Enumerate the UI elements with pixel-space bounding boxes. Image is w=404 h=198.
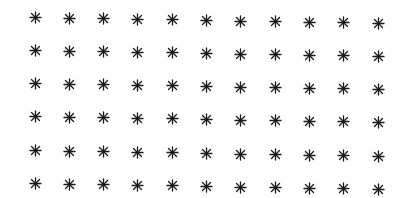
asterisk-icon bbox=[29, 110, 42, 123]
asterisk-icon bbox=[63, 145, 76, 158]
asterisk-icon bbox=[63, 78, 76, 91]
asterisk-icon bbox=[269, 148, 282, 161]
asterisk-icon bbox=[29, 11, 42, 24]
asterisk-icon bbox=[372, 183, 385, 196]
asterisk-icon bbox=[337, 82, 350, 95]
asterisk-icon bbox=[337, 182, 350, 195]
asterisk-icon bbox=[63, 178, 76, 191]
asterisk-icon bbox=[29, 144, 42, 157]
asterisk-icon bbox=[372, 17, 385, 30]
asterisk-icon bbox=[303, 82, 316, 95]
asterisk-icon bbox=[372, 50, 385, 63]
asterisk-icon bbox=[131, 112, 144, 125]
asterisk-icon bbox=[63, 12, 76, 25]
asterisk-icon bbox=[269, 48, 282, 61]
asterisk-icon bbox=[200, 113, 213, 126]
asterisk-icon bbox=[63, 111, 76, 124]
asterisk-icon bbox=[372, 116, 385, 129]
asterisk-icon bbox=[63, 45, 76, 58]
asterisk-icon bbox=[131, 13, 144, 26]
asterisk-icon bbox=[97, 111, 110, 124]
asterisk-icon bbox=[269, 181, 282, 194]
asterisk-icon bbox=[234, 114, 247, 127]
asterisk-icon bbox=[131, 146, 144, 159]
asterisk-icon bbox=[234, 148, 247, 161]
asterisk-icon bbox=[97, 145, 110, 158]
asterisk-icon bbox=[234, 81, 247, 94]
asterisk-icon bbox=[234, 15, 247, 28]
asterisk-icon bbox=[166, 179, 179, 192]
asterisk-icon bbox=[131, 46, 144, 59]
asterisk-icon bbox=[97, 78, 110, 91]
asterisk-icon bbox=[303, 16, 316, 29]
asterisk-icon bbox=[166, 146, 179, 159]
asterisk-icon bbox=[166, 46, 179, 59]
asterisk-icon bbox=[97, 12, 110, 25]
asterisk-icon bbox=[200, 180, 213, 193]
asterisk-icon bbox=[303, 149, 316, 162]
asterisk-icon bbox=[337, 149, 350, 162]
asterisk-icon bbox=[97, 178, 110, 191]
asterisk-icon bbox=[337, 115, 350, 128]
asterisk-icon bbox=[97, 45, 110, 58]
asterisk-icon bbox=[166, 79, 179, 92]
asterisk-icon bbox=[200, 47, 213, 60]
asterisk-icon bbox=[131, 79, 144, 92]
asterisk-icon bbox=[337, 49, 350, 62]
asterisk-icon bbox=[303, 49, 316, 62]
asterisk-icon bbox=[234, 181, 247, 194]
asterisk-grid bbox=[0, 0, 404, 198]
asterisk-icon bbox=[269, 114, 282, 127]
asterisk-icon bbox=[303, 115, 316, 128]
asterisk-icon bbox=[29, 77, 42, 90]
asterisk-icon bbox=[234, 48, 247, 61]
asterisk-icon bbox=[131, 179, 144, 192]
asterisk-icon bbox=[372, 150, 385, 163]
asterisk-icon bbox=[269, 15, 282, 28]
asterisk-icon bbox=[166, 112, 179, 125]
asterisk-icon bbox=[269, 81, 282, 94]
asterisk-icon bbox=[29, 44, 42, 57]
asterisk-icon bbox=[200, 147, 213, 160]
asterisk-icon bbox=[303, 182, 316, 195]
asterisk-icon bbox=[29, 177, 42, 190]
asterisk-icon bbox=[200, 14, 213, 27]
asterisk-icon bbox=[337, 16, 350, 29]
asterisk-icon bbox=[372, 83, 385, 96]
asterisk-icon bbox=[166, 13, 179, 26]
asterisk-icon bbox=[200, 80, 213, 93]
